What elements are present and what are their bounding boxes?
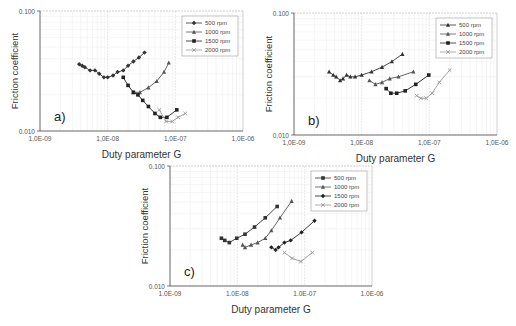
x-tick-label: 1,0E-06: [232, 135, 255, 142]
data-point-marker: [165, 116, 169, 120]
legend-label: 1000 rpm: [459, 31, 484, 37]
figure-canvas: 0.0100.1001,0E-091,0E-081,0E-071,0E-06Du…: [0, 0, 516, 326]
data-point-marker: [141, 99, 145, 103]
data-point-marker: [136, 93, 140, 97]
x-tick-label: 1.0E-07: [293, 290, 316, 297]
y-tick-label: 0.010: [19, 128, 36, 135]
legend: 500 rpm1000 rpm1500 rpm2000 rpm: [436, 18, 492, 58]
data-point-marker: [147, 105, 151, 109]
x-tick-label: 1.0E-06: [361, 290, 384, 297]
data-point-marker: [275, 205, 279, 209]
data-point-marker: [400, 52, 404, 56]
x-tick-label: 1,0E-08: [96, 135, 119, 142]
data-point-marker: [192, 39, 196, 43]
legend-label: 500 rpm: [459, 22, 481, 28]
data-point-marker: [235, 236, 239, 240]
data-point-marker: [389, 91, 393, 95]
x-tick-label: 1,0E-08: [350, 139, 373, 146]
legend-label: 500 rpm: [334, 175, 356, 181]
x-tick-label: 1,0E-09: [29, 135, 52, 142]
data-point-marker: [427, 73, 431, 77]
data-point-marker: [327, 69, 331, 73]
data-point-marker: [105, 75, 109, 79]
legend: 500 rpm1000 rpm1500 rpm2000 rpm: [311, 171, 367, 211]
legend-label: 1500 rpm: [459, 40, 484, 46]
data-point-marker: [395, 91, 399, 95]
y-axis-title: Friction coefficient: [9, 32, 20, 109]
data-point-marker: [253, 225, 257, 229]
data-point-marker: [228, 241, 232, 245]
data-point-marker: [126, 84, 130, 88]
data-point-marker: [241, 243, 245, 247]
x-tick-label: 1,0E-07: [164, 135, 187, 142]
panel-label: a): [54, 109, 66, 124]
x-tick-label: 1,0E-09: [283, 139, 306, 146]
data-point-marker: [345, 73, 349, 77]
chart-panel-c: 0.0100.1001.0E-091.0E-081.0E-071.0E-06Du…: [139, 163, 384, 316]
y-tick-label: 0.010: [149, 283, 166, 290]
data-point-marker: [269, 245, 273, 249]
series-2000-rpm: [415, 68, 452, 100]
data-point-marker: [414, 83, 418, 87]
data-point-marker: [311, 251, 315, 255]
data-point-marker: [176, 116, 180, 120]
series-1000-rpm: [367, 69, 415, 86]
legend-label: 1500 rpm: [334, 193, 359, 199]
data-point-marker: [223, 239, 227, 243]
panel-label: c): [184, 264, 195, 279]
data-point-marker: [415, 94, 419, 98]
y-tick-label: 0.100: [19, 8, 36, 15]
data-point-marker: [153, 112, 157, 116]
data-point-marker: [183, 112, 187, 116]
x-tick-label: 1.0E-08: [226, 290, 249, 297]
x-axis-title: Duty parameter G: [356, 153, 436, 164]
data-point-marker: [437, 81, 441, 85]
legend-label: 2000 rpm: [205, 47, 230, 53]
data-point-marker: [243, 232, 247, 236]
y-tick-label: 0,010: [273, 132, 290, 139]
legend-label: 2000 rpm: [334, 202, 359, 208]
data-point-marker: [220, 236, 224, 240]
data-point-marker: [446, 41, 450, 45]
data-point-marker: [384, 87, 388, 91]
x-tick-label: 1,0E-06: [486, 139, 509, 146]
data-point-marker: [403, 89, 407, 93]
series-1500-rpm: [121, 76, 178, 120]
data-point-marker: [380, 65, 384, 69]
data-point-marker: [321, 176, 325, 180]
data-point-marker: [263, 216, 267, 220]
y-axis-title: Friction coefficient: [263, 35, 274, 112]
data-point-marker: [167, 61, 171, 65]
legend: 500 rpm1000 rpm1500 rpm2000 rpm: [182, 16, 238, 56]
series-1000-rpm: [241, 199, 294, 249]
data-point-marker: [367, 78, 371, 82]
y-axis-title: Friction coefficient: [139, 187, 150, 264]
data-point-marker: [175, 108, 179, 112]
series-500-rpm: [220, 205, 279, 245]
legend-label: 2000 rpm: [459, 49, 484, 55]
x-axis-title: Duty parameter G: [231, 304, 311, 315]
x-tick-label: 1,0E-07: [418, 139, 441, 146]
y-tick-label: 0.100: [149, 163, 166, 170]
x-tick-label: 1.0E-09: [159, 290, 182, 297]
data-point-marker: [159, 116, 163, 120]
legend-label: 1000 rpm: [205, 29, 230, 35]
legend-label: 1500 rpm: [205, 38, 230, 44]
y-tick-label: 0.100: [273, 10, 290, 17]
data-point-marker: [132, 91, 136, 95]
data-point-marker: [121, 76, 125, 80]
panel-label: b): [308, 113, 320, 128]
data-point-marker: [256, 240, 260, 244]
chart-panel-a: 0.0100.1001,0E-091,0E-081,0E-071,0E-06Du…: [9, 8, 255, 161]
data-point-marker: [430, 91, 434, 95]
legend-label: 500 rpm: [205, 20, 227, 26]
chart-panel-b: 0,0100.1001,0E-091,0E-081,0E-071,0E-06Du…: [263, 10, 509, 165]
data-point-marker: [88, 68, 92, 72]
data-point-marker: [162, 70, 166, 74]
x-axis-title: Duty parameter G: [102, 149, 182, 160]
data-point-marker: [290, 199, 294, 203]
data-point-marker: [411, 69, 415, 73]
legend-label: 1000 rpm: [334, 184, 359, 190]
